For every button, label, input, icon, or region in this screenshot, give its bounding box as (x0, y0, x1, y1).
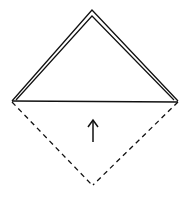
dashed-left-edge (12, 102, 92, 185)
inner-triangle (16, 16, 174, 100)
arrow-up-icon (88, 120, 98, 142)
fold-edge-line (12, 101, 178, 102)
dashed-right-edge (93, 102, 178, 185)
outer-triangle (12, 10, 178, 101)
origami-fold-diagram (0, 0, 191, 201)
